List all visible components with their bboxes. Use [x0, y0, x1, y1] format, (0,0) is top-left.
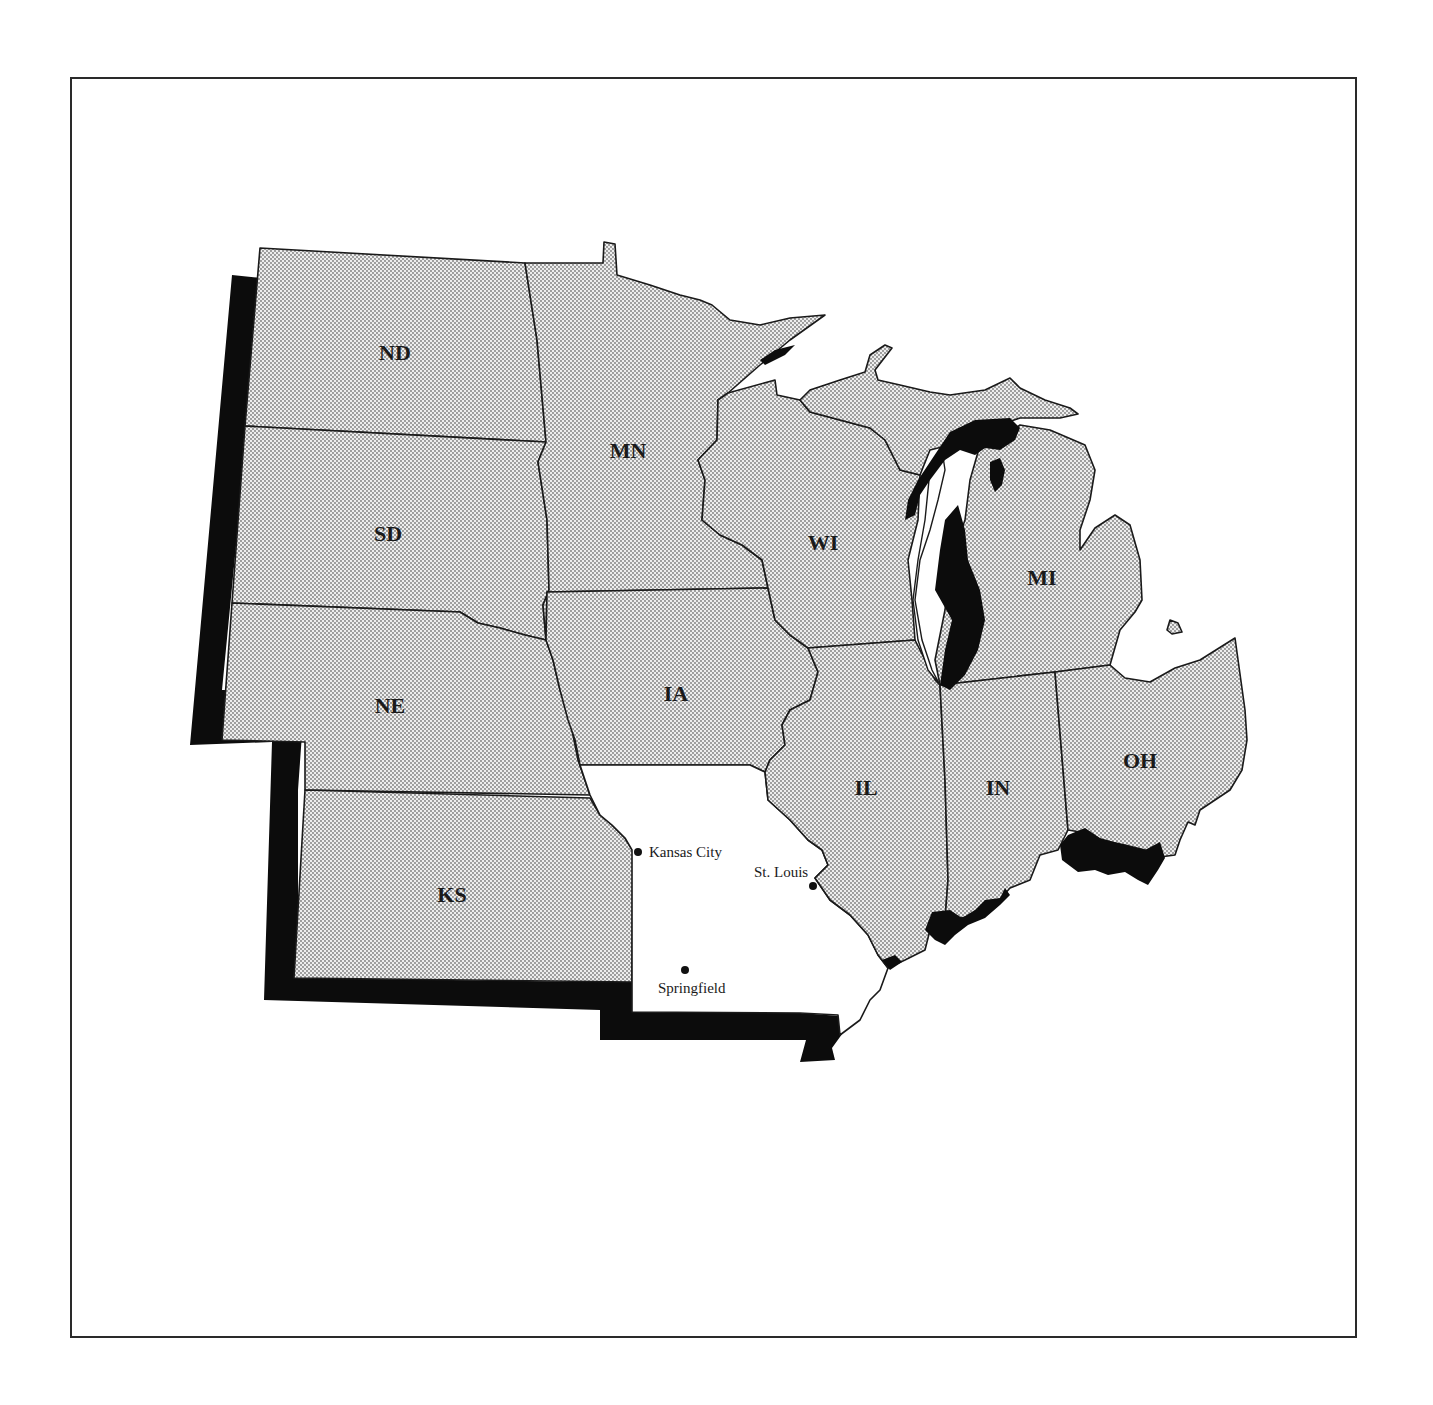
state-label-ne: NE [375, 693, 406, 718]
city-label-springfield: Springfield [658, 980, 726, 996]
city-dot-springfield[interactable] [681, 966, 689, 974]
state-label-nd: ND [379, 340, 411, 365]
state-label-oh: OH [1123, 748, 1157, 773]
state-label-ks: KS [437, 882, 466, 907]
state-label-ia: IA [664, 681, 689, 706]
state-label-mi: MI [1027, 565, 1056, 590]
city-dot-kansas-city[interactable] [634, 848, 642, 856]
state-label-in: IN [986, 775, 1011, 800]
state-label-mn: MN [610, 438, 647, 463]
city-label-kansas-city: Kansas City [649, 844, 722, 860]
city-dot-st-louis[interactable] [809, 882, 817, 890]
midwest-map: ND SD NE KS MN IA WI MI IL IN OH Kansas … [0, 0, 1433, 1405]
state-label-sd: SD [374, 521, 402, 546]
state-label-il: IL [854, 775, 877, 800]
state-in[interactable] [930, 672, 1068, 935]
city-label-st-louis: St. Louis [754, 864, 808, 880]
lake-erie-island [1167, 620, 1182, 634]
state-label-wi: WI [808, 530, 839, 555]
